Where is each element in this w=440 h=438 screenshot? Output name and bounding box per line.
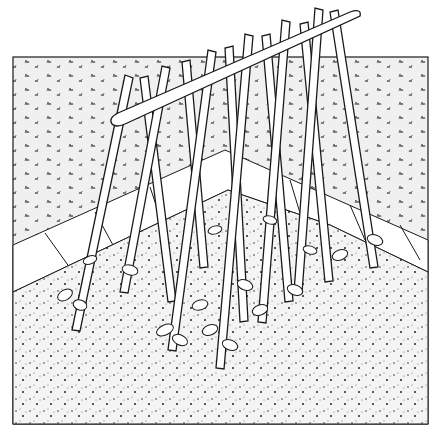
bean-trellis-illustration — [0, 0, 440, 438]
illustration-canvas — [0, 0, 440, 438]
